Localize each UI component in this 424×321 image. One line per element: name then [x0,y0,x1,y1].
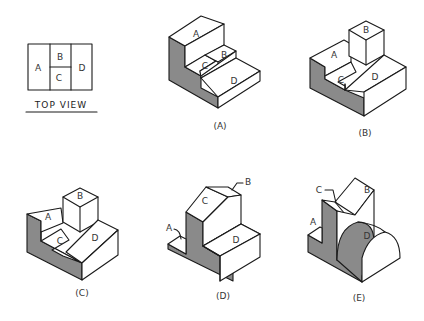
figure-d-label-b: B [245,177,251,187]
figure-c-label-a: A [45,212,52,222]
figure-c-label-c: C [57,236,63,246]
figure-d-label-d: D [233,235,240,245]
figure-e-label-a: A [310,217,317,227]
top-view-label-a: A [35,63,42,73]
figure-e-label-d: D [364,231,371,241]
figure-e-label-b: B [364,185,370,195]
top-view-label-d: D [79,63,86,73]
figure-b-caption: (B) [358,128,371,138]
figure-d-leader-b [232,183,243,190]
top-view-title: TOP VIEW [34,100,87,110]
figure-d-caption: (D) [216,291,230,301]
figure-b-label-c: C [338,75,344,85]
figure-d-label-c: C [202,196,208,206]
figure-a: A B C D (A) [169,16,260,131]
figure-e: C A B D (E) [308,178,400,303]
figure-c: A B C D (C) [27,188,118,298]
figure-d: A B C D (D) [166,177,260,301]
figure-c-label-d: D [92,233,99,243]
figure-e-caption: (E) [353,293,366,303]
figure-a-label-c: C [202,61,208,71]
figure-a-caption: (A) [213,121,226,131]
figure-b: A B C D (B) [310,21,406,138]
figure-b-label-a: A [331,50,338,60]
top-view-label-b: B [57,52,63,62]
figure-c-label-b: B [77,191,83,201]
top-view: A B C D TOP VIEW [26,44,97,112]
top-view-label-c: C [56,73,62,83]
figure-b-label-b: B [363,25,369,35]
figure-a-label-a: A [193,29,200,39]
figure-d-label-a: A [166,223,173,233]
figure-b-label-d: D [372,72,379,82]
figure-c-caption: (C) [75,288,88,298]
figure-a-label-d: D [231,76,238,86]
figure-a-label-b: B [221,50,227,60]
multiview-exercise-diagram: A B C D TOP VIEW A B C D (A) [0,0,424,321]
figure-e-label-c: C [316,185,322,195]
